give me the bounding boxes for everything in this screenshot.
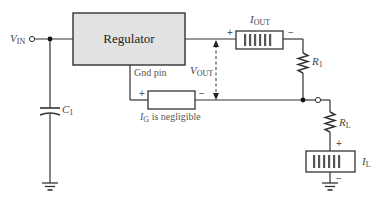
iout-minus-sign: − (288, 28, 294, 38)
ig-plus-sign: + (139, 89, 145, 99)
capacitor-c1-symbol (40, 108, 60, 115)
output-junction-dot (301, 98, 306, 103)
vout-label: VOUT (190, 65, 213, 78)
ground-c1-icon (42, 183, 58, 190)
ig-minus-sign: − (199, 89, 205, 99)
input-junction-dot (48, 37, 53, 42)
ig-label: IG is negligible (140, 112, 201, 124)
ammeter-il (306, 151, 355, 172)
regulator-label: Regulator (73, 13, 185, 65)
ammeter-iout (236, 31, 283, 49)
vout-arrow-head-down (213, 93, 219, 100)
il-minus-sign: − (336, 174, 342, 184)
vout-terminal (315, 97, 320, 102)
r1-label: R1 (312, 56, 323, 69)
vout-arrow-head-up (213, 40, 219, 47)
ammeter-ig (148, 91, 195, 109)
resistor-rl-symbol (325, 112, 335, 132)
circuit-diagram (0, 0, 383, 209)
resistor-r1-symbol (298, 53, 308, 73)
iout-label: IOUT (250, 14, 270, 27)
rl-label: RL (339, 117, 351, 130)
iout-plus-sign: + (227, 28, 233, 38)
vin-terminal (29, 36, 34, 41)
il-plus-sign: + (336, 139, 342, 149)
gnd-pin-label: Gnd pin (134, 68, 167, 78)
c1-label: C1 (62, 104, 73, 117)
vin-label: VIN (10, 33, 25, 46)
ground-load-icon (322, 183, 338, 190)
il-label: IL (362, 156, 371, 169)
